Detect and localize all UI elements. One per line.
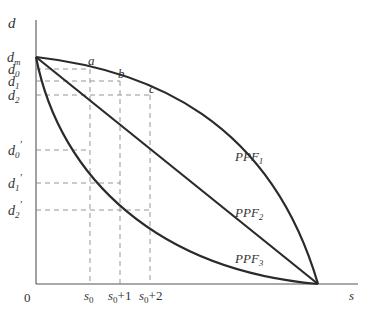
point-c-label: c <box>149 81 155 96</box>
ppf2-label: PPF2 <box>234 205 264 222</box>
y-axis-label: d <box>8 15 16 31</box>
ppf3-label: PPF3 <box>234 251 264 268</box>
ppf-diagram: d s 0 dm d0 d1 d2 d0′ d1′ d2′ s0 s0+1 s0… <box>0 0 378 316</box>
tick-s0: s0 <box>84 288 94 305</box>
tick-s0-plus-2: s0+2 <box>139 288 162 305</box>
ppf1-label: PPF1 <box>234 149 263 166</box>
tick-d1-prime: d1′ <box>8 171 23 193</box>
point-a-label: a <box>88 53 95 68</box>
tick-d0-prime: d0′ <box>8 138 23 160</box>
tick-s0-plus-1: s0+1 <box>108 288 131 305</box>
diagram-canvas: d s 0 dm d0 d1 d2 d0′ d1′ d2′ s0 s0+1 s0… <box>0 0 378 316</box>
point-b-label: b <box>118 66 125 81</box>
tick-d2-prime: d2′ <box>8 198 23 220</box>
x-axis-label: s <box>349 288 354 303</box>
origin-label: 0 <box>24 290 31 305</box>
ppf2-curve <box>36 57 318 284</box>
